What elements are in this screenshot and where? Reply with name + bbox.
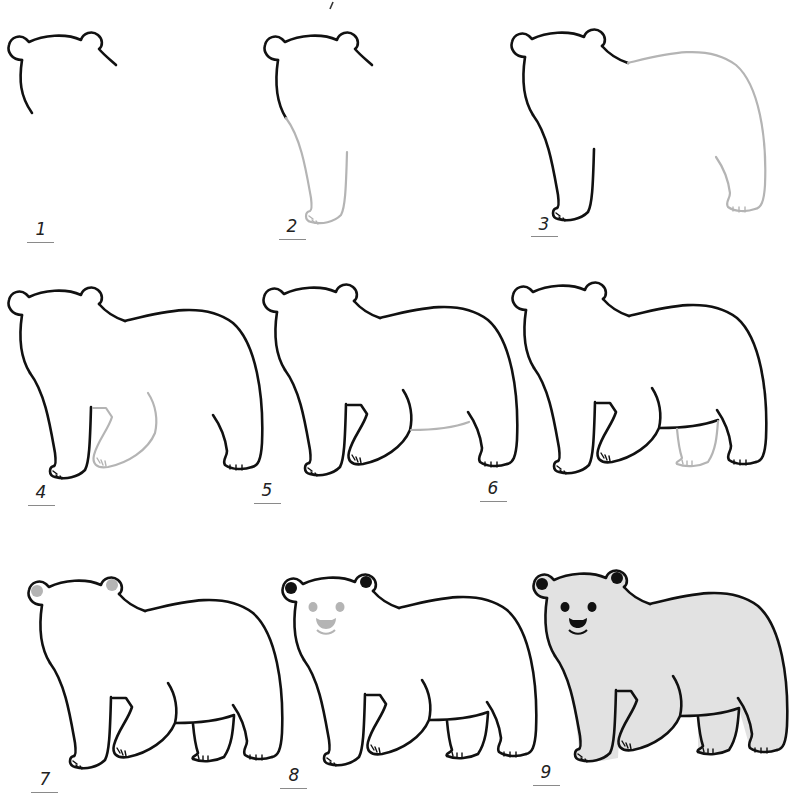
left-inner-ear <box>285 582 297 594</box>
step-7-drawing <box>29 578 283 769</box>
nose <box>316 618 336 629</box>
step-underline-1 <box>27 242 54 243</box>
step-label-4: 4 <box>26 482 56 502</box>
face-guide <box>309 602 345 634</box>
step-underline-9 <box>533 785 560 786</box>
step-label-7: 7 <box>30 769 60 789</box>
step-underline-2 <box>279 239 306 240</box>
step-9-drawing <box>534 571 788 762</box>
tutorial-canvas <box>0 0 789 805</box>
stray-mark <box>330 2 333 9</box>
right-inner-ear <box>360 576 372 588</box>
step-label-6: 6 <box>478 478 508 498</box>
step-underline-7 <box>31 792 58 793</box>
step-2-drawing <box>265 33 372 224</box>
left-inner-ear <box>31 585 43 597</box>
right-eye <box>336 602 345 612</box>
step-8-drawing <box>283 575 537 766</box>
step-label-5: 5 <box>252 480 282 500</box>
step-underline-5 <box>254 503 281 504</box>
step-label-3: 3 <box>529 214 559 234</box>
step-3-drawing <box>512 30 766 221</box>
step-1-drawing <box>9 33 116 113</box>
step-underline-8 <box>280 788 307 789</box>
step-label-8: 8 <box>279 765 309 785</box>
right-inner-ear <box>106 579 118 591</box>
step-4-drawing <box>9 288 263 479</box>
left-eye <box>309 602 318 612</box>
mouth <box>317 630 335 634</box>
step-underline-3 <box>531 236 558 237</box>
left-eye <box>561 602 570 612</box>
step-label-2: 2 <box>277 216 307 236</box>
right-eye <box>588 602 597 612</box>
step-underline-6 <box>480 501 507 502</box>
step-6-drawing <box>513 283 767 474</box>
step-label-9: 9 <box>531 762 561 782</box>
step-label-1: 1 <box>26 219 56 239</box>
step-5-drawing <box>264 285 518 476</box>
step-underline-4 <box>28 505 55 506</box>
